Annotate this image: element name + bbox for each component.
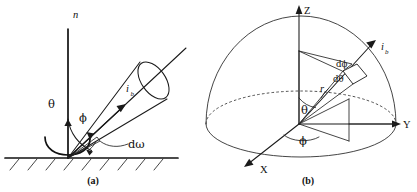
x-axis-line	[248, 124, 299, 164]
azimuth-arrow-head	[87, 132, 95, 140]
z-axis-label: Z	[304, 5, 310, 16]
domega-leader-line	[101, 142, 129, 147]
cone-ruling-lower	[68, 99, 167, 158]
z-axis-arrow	[296, 5, 303, 14]
polar-label-b: θ	[301, 103, 308, 117]
d-theta-label: dθ	[333, 74, 344, 84]
figure-root: n ϕ θ i b dω (a)	[0, 0, 417, 192]
panel-a-diagram: n ϕ θ i b dω (a)	[0, 0, 208, 192]
y-axis-label: Y	[403, 119, 411, 130]
caption-a: (a)	[87, 175, 99, 187]
radiance-label-a-sub: b	[131, 90, 135, 98]
d-phi-label: dϕ	[336, 59, 348, 69]
ground-hatching	[10, 159, 163, 170]
normal-label: n	[73, 9, 78, 20]
azimuth-label-a: ϕ	[79, 111, 87, 125]
projection-box-group	[299, 99, 396, 141]
panel-b-diagram: Z Y X θ ϕ r dϕ dθ i b (b)	[200, 0, 417, 192]
radiance-direction-vector	[68, 104, 126, 158]
domega-wedge-shape	[68, 137, 100, 158]
theta-arc-head-top	[64, 119, 71, 126]
differential-patch-group	[299, 64, 367, 124]
radiance-label-a: i b	[126, 83, 135, 98]
x-axis-label: X	[260, 164, 268, 175]
radiance-label-b-sub: b	[385, 48, 389, 56]
azimuth-rotation-arrow	[45, 132, 94, 155]
radiance-vector-line	[68, 106, 124, 158]
solid-angle-label: dω	[128, 137, 145, 151]
radiance-label-b: i b	[381, 41, 389, 56]
azimuth-label-b: ϕ	[299, 134, 307, 148]
radiance-label-b-main: i	[381, 41, 384, 52]
x-axis-arrow	[244, 159, 254, 167]
ground-plane-group	[5, 158, 178, 170]
caption-b: (b)	[302, 175, 314, 187]
polar-label-a: θ	[48, 97, 55, 111]
radiance-label-a-main: i	[126, 83, 129, 94]
phi-angle-group-b	[284, 124, 349, 141]
